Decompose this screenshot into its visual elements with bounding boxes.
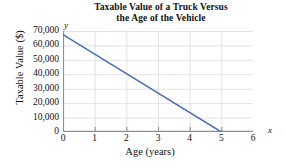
x-axis-letter: x [268,125,272,135]
x-tick-label: 0 [54,133,72,144]
y-tick-label: 0 [13,127,59,137]
y-tick-label-group: 010,00020,00030,00040,00050,00060,00070,… [11,31,59,132]
plot-area [63,31,253,132]
y-tick-label: 50,000 [13,55,59,65]
chart-title-line-2: the Age of the Vehicle [56,13,266,24]
x-axis-label: Age (years) [60,146,240,157]
x-tick-label-group: 0123456 [63,133,263,147]
x-tick-label: 1 [86,133,104,144]
data-line [63,35,221,132]
y-axis-letter: y [64,20,68,30]
x-tick-label: 2 [117,133,135,144]
chart-canvas [63,31,253,132]
y-tick-label: 10,000 [13,113,59,123]
chart-figure: Taxable Value of a Truck Versus the Age … [0,0,286,168]
y-tick-label: 70,000 [13,26,59,36]
data-series-group [63,35,221,132]
y-tick-label: 40,000 [13,69,59,79]
gridlines [63,31,253,132]
x-tick-label: 5 [212,133,230,144]
chart-title-line-1: Taxable Value of a Truck Versus [56,2,266,13]
x-tick-label: 3 [149,133,167,144]
y-tick-label: 30,000 [13,84,59,94]
x-tick-label: 6 [244,133,262,144]
chart-title: Taxable Value of a Truck Versus the Age … [56,2,266,24]
y-tick-label: 20,000 [13,98,59,108]
y-tick-label: 60,000 [13,40,59,50]
x-tick-label: 4 [181,133,199,144]
